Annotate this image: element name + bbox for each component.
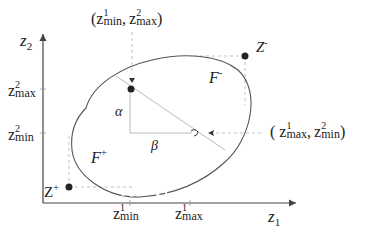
label-alpha: α (115, 104, 123, 119)
tick-label-x-min: z1min (113, 202, 139, 223)
point-z-minus (242, 53, 249, 60)
point-open (191, 130, 198, 136)
y-axis-label: z2 (19, 31, 32, 52)
label-f-plus: F+ (90, 146, 107, 166)
annotation-right: (z1max,z2min) (270, 120, 345, 141)
arrow-left-icon (208, 130, 214, 136)
pareto-diagram: z2 z1 z2max z2min z1min z1max Z+ Z- F+ F… (0, 0, 367, 239)
x-axis-label: z1 (267, 207, 280, 228)
label-z-plus: Z+ (44, 182, 59, 200)
arrow-down-icon (129, 78, 135, 83)
point-z-plus (66, 184, 73, 191)
label-z-minus: Z- (256, 37, 268, 55)
feasible-ellipse (72, 56, 251, 197)
tick-label-y-max: z2max (8, 79, 36, 100)
label-beta: β (150, 138, 158, 153)
tick-label-x-max: z1max (175, 202, 203, 223)
point-top (128, 86, 135, 93)
annotation-top: (z1min,z2max) (91, 7, 162, 28)
label-f-minus: F- (208, 66, 223, 86)
tick-label-y-min: z2min (8, 123, 34, 144)
